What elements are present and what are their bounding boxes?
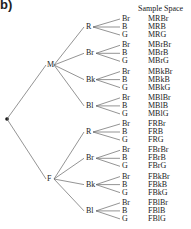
sample-outcome: FRG: [148, 136, 164, 144]
branch-node: Br: [86, 49, 94, 57]
leaf-node: G: [122, 31, 128, 39]
level-node-m: M: [47, 61, 54, 69]
branch-node: R: [86, 23, 91, 31]
leaf-node: G: [122, 162, 128, 170]
leaf-node: G: [122, 215, 128, 223]
level-node-f: F: [47, 175, 51, 183]
sample-outcome: FBlG: [148, 215, 166, 223]
leaf-node: G: [122, 57, 128, 65]
branch-node: Bk: [86, 76, 95, 84]
branch-node: Bk: [86, 181, 95, 189]
branch-node: Br: [86, 154, 94, 162]
leaf-node: G: [122, 189, 128, 197]
sample-outcome: FBkG: [148, 189, 168, 197]
branch-node: Bl: [86, 102, 94, 110]
branch-node: R: [86, 128, 91, 136]
sample-outcome: MRG: [148, 31, 166, 39]
leaf-node: G: [122, 136, 128, 144]
sample-outcome: MBrG: [148, 57, 169, 65]
sample-outcome: FBrG: [148, 162, 166, 170]
branch-node: Bl: [86, 207, 94, 215]
leaf-node: G: [122, 110, 128, 118]
sample-outcome: MBlG: [148, 110, 168, 118]
leaf-node: G: [122, 84, 128, 92]
sample-outcome: MBkG: [148, 84, 170, 92]
